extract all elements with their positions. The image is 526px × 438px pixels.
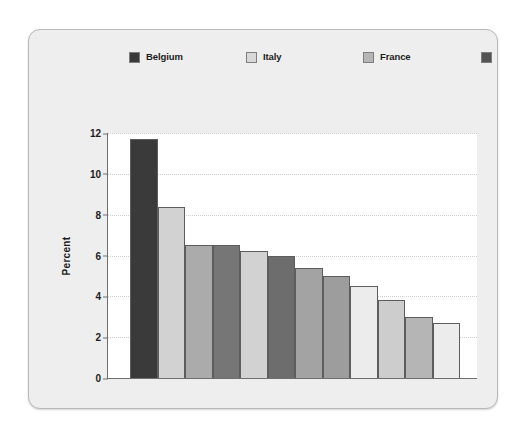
legend-item[interactable]: France	[363, 48, 481, 66]
bar[interactable]	[130, 139, 158, 378]
bar[interactable]	[433, 323, 461, 378]
y-axis-tick-label: 2	[74, 332, 108, 343]
bar[interactable]	[295, 268, 323, 378]
plot-area: 024681012	[107, 133, 477, 379]
legend-item-label: Italy	[263, 48, 282, 66]
legend-item[interactable]: West Germany	[481, 48, 498, 66]
legend-item[interactable]: Belgium	[129, 48, 246, 66]
legend-item-label: France	[380, 48, 411, 66]
y-axis-tick-label: 0	[74, 373, 108, 384]
bar[interactable]	[350, 286, 378, 378]
y-axis-label: Percent	[59, 133, 73, 379]
bar[interactable]	[323, 276, 351, 378]
bar[interactable]	[405, 317, 433, 378]
bar[interactable]	[213, 245, 241, 378]
bar-group	[130, 133, 460, 378]
y-axis-tick-label: 6	[74, 250, 108, 261]
legend-swatch-icon	[246, 52, 257, 63]
bar[interactable]	[240, 251, 268, 378]
bar[interactable]	[268, 256, 296, 379]
y-axis-tick-label: 8	[74, 209, 108, 220]
bar[interactable]	[185, 245, 213, 378]
chart-legend: BelgiumItalyFranceWest GermanySpainBrita…	[129, 48, 481, 66]
chart-figure: BelgiumItalyFranceWest GermanySpainBrita…	[28, 29, 498, 409]
bar[interactable]	[158, 207, 186, 379]
bar[interactable]	[378, 300, 406, 378]
legend-swatch-icon	[363, 52, 374, 63]
legend-item[interactable]: Italy	[246, 48, 363, 66]
y-axis-tick-label: 12	[74, 128, 108, 139]
legend-item-label: Belgium	[146, 48, 183, 66]
legend-swatch-icon	[129, 52, 140, 63]
y-axis-tick-label: 4	[74, 291, 108, 302]
legend-swatch-icon	[481, 52, 492, 63]
y-axis-tick-label: 10	[74, 168, 108, 179]
